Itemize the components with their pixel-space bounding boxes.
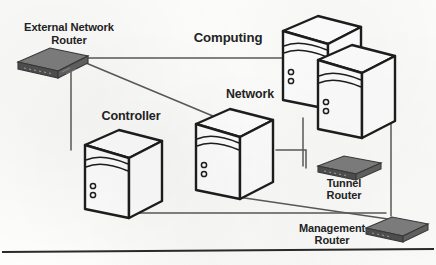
computing-tower-front-icon[interactable] (318, 45, 395, 138)
label-external-network-router: External Network Router (8, 21, 130, 46)
label-controller: Controller (79, 109, 183, 123)
external-network-router-icon[interactable] (18, 48, 88, 78)
network-diagram: External Network Router Computing Networ… (0, 0, 436, 265)
controller-tower-icon[interactable] (85, 130, 162, 218)
network-tower-icon[interactable] (196, 109, 273, 199)
label-tunnel-router: Tunnel Router (306, 177, 382, 202)
label-management-router: Management Router (274, 222, 390, 247)
label-computing: Computing (180, 31, 276, 46)
label-network: Network (208, 88, 292, 102)
